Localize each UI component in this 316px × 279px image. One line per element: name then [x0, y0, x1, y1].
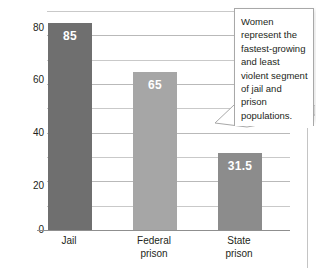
bar-value-jail: 85 [48, 29, 92, 43]
page-margin-rule [307, 128, 308, 268]
x-label-jail: Jail [29, 234, 109, 247]
bar-chart: 80 60 40 20 0 85 65 31.5 Jail Federal [0, 0, 316, 279]
x-label-federal-prison-line2: prison [140, 248, 167, 259]
y-tick-60: 60 [2, 75, 44, 85]
y-axis-labels: 80 60 40 20 0 [0, 11, 44, 230]
y-tick-20: 20 [2, 181, 44, 191]
bar-state-prison: 31.5 [218, 153, 262, 230]
bar-value-state-prison: 31.5 [218, 159, 262, 173]
x-label-federal-prison: Federal prison [114, 234, 194, 260]
x-axis-baseline [37, 230, 290, 231]
bar-jail: 85 [48, 23, 92, 230]
x-label-federal-prison-line1: Federal [137, 235, 171, 246]
callout-box: Women represent the fastest-growing and … [234, 8, 314, 126]
x-label-state-prison-line2: prison [225, 248, 252, 259]
x-label-state-prison-line1: State [227, 235, 250, 246]
x-label-state-prison: State prison [199, 234, 279, 260]
y-tick-80: 80 [2, 23, 44, 33]
callout-text: Women represent the fastest-growing and … [235, 9, 313, 126]
y-tick-40: 40 [2, 128, 44, 138]
bar-value-federal-prison: 65 [133, 78, 177, 92]
x-axis-labels: Jail Federal prison State prison [47, 234, 290, 274]
bar-federal-prison: 65 [133, 72, 177, 230]
x-label-jail-line1: Jail [61, 235, 76, 246]
